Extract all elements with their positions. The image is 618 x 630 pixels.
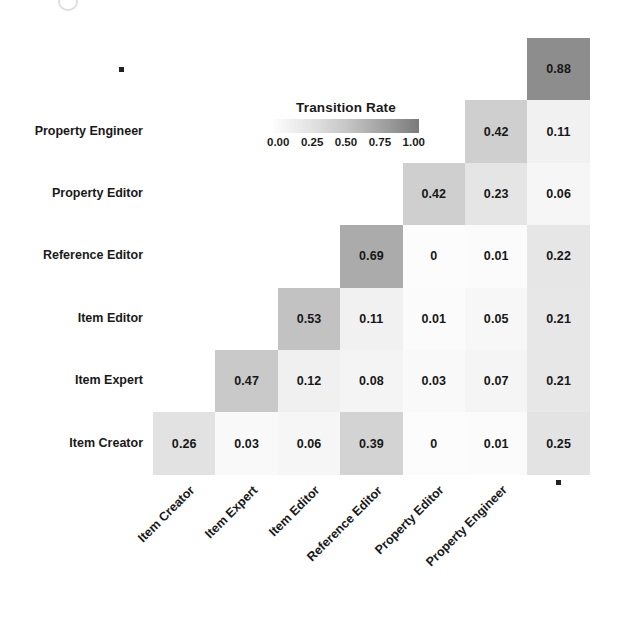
heatmap-cell: 0.01 (403, 288, 465, 350)
heatmap-cell: 0 (403, 412, 465, 474)
heatmap-cell: 0.23 (465, 163, 527, 225)
heatmap-cell: 0.53 (278, 288, 340, 350)
heatmap-cell-value: 0.11 (527, 100, 589, 162)
heatmap-cell-value: 0.21 (527, 350, 589, 412)
heatmap-cell-value: 0.69 (340, 225, 402, 287)
heatmap-cell: 0.03 (215, 412, 277, 474)
heatmap-cell-value: 0 (403, 412, 465, 474)
heatmap-cell-value: 0.01 (465, 412, 527, 474)
legend-tick: 0.75 (369, 136, 391, 148)
heatmap-cell-value: 0.42 (403, 163, 465, 225)
scan-artifact (58, 0, 78, 11)
legend-tick: 0.00 (267, 136, 289, 148)
heatmap-cell: 0.22 (527, 225, 589, 287)
heatmap-cell-value: 0.08 (340, 350, 402, 412)
heatmap-cell: 0.21 (527, 288, 589, 350)
x-axis-dot-marker (556, 480, 561, 485)
legend-tick: 0.50 (335, 136, 357, 148)
heatmap-cell: 0.07 (465, 350, 527, 412)
heatmap-cell: 0.05 (465, 288, 527, 350)
heatmap-cell-value: 0.23 (465, 163, 527, 225)
y-axis-label: Item Creator (0, 437, 143, 450)
heatmap-cell: 0.26 (153, 412, 215, 474)
y-axis-label: Property Engineer (0, 125, 143, 138)
heatmap-cell-value: 0.03 (215, 412, 277, 474)
legend-tick: 1.00 (403, 136, 425, 148)
heatmap-cell: 0.21 (527, 350, 589, 412)
heatmap-cell: 0.42 (403, 163, 465, 225)
heatmap-cell: 0 (403, 225, 465, 287)
heatmap-cell: 0.06 (527, 163, 589, 225)
heatmap-cell: 0.03 (403, 350, 465, 412)
heatmap-cell-value: 0.01 (465, 225, 527, 287)
heatmap-cell-value: 0.25 (527, 412, 589, 474)
heatmap-cell-value: 0.03 (403, 350, 465, 412)
legend-tick: 0.25 (301, 136, 323, 148)
heatmap-cell-value: 0.53 (278, 288, 340, 350)
heatmap-cell: 0.42 (465, 100, 527, 162)
heatmap-cell: 0.47 (215, 350, 277, 412)
heatmap-cell-value: 0.39 (340, 412, 402, 474)
heatmap-cell-value: 0.12 (278, 350, 340, 412)
heatmap-cell: 0.88 (527, 38, 589, 100)
heatmap-cell-value: 0.88 (527, 38, 589, 100)
heatmap-cell: 0.39 (340, 412, 402, 474)
heatmap-cell: 0.69 (340, 225, 402, 287)
heatmap-cell: 0.08 (340, 350, 402, 412)
legend-colorbar (274, 119, 419, 133)
heatmap-cell-value: 0.42 (465, 100, 527, 162)
legend: Transition Rate 0.000.250.500.751.00 (266, 100, 426, 148)
legend-title: Transition Rate (266, 100, 426, 115)
heatmap-cell-value: 0.05 (465, 288, 527, 350)
heatmap-cell: 0.06 (278, 412, 340, 474)
transition-rate-heatmap-figure: 0.880.420.110.420.230.060.6900.010.220.5… (0, 0, 618, 630)
y-axis-label: Item Expert (0, 374, 143, 387)
heatmap-cell-value: 0.07 (465, 350, 527, 412)
y-axis-label: Item Editor (0, 312, 143, 325)
heatmap-cell: 0.01 (465, 412, 527, 474)
heatmap-cell: 0.01 (465, 225, 527, 287)
legend-tick-labels: 0.000.250.500.751.00 (267, 136, 425, 148)
heatmap-cell-value: 0.06 (527, 163, 589, 225)
heatmap-cell: 0.11 (527, 100, 589, 162)
heatmap-cell: 0.11 (340, 288, 402, 350)
heatmap-cell-value: 0.01 (403, 288, 465, 350)
heatmap-cell: 0.25 (527, 412, 589, 474)
heatmap-cell-value: 0.22 (527, 225, 589, 287)
heatmap-cell: 0.12 (278, 350, 340, 412)
heatmap-cell-value: 0.11 (340, 288, 402, 350)
y-axis-dot-marker (119, 67, 124, 72)
heatmap-cell-value: 0.47 (215, 350, 277, 412)
y-axis-label: Property Editor (0, 187, 143, 200)
heatmap-cell-value: 0.21 (527, 288, 589, 350)
y-axis-label: Reference Editor (0, 249, 143, 262)
heatmap-cell-value: 0.06 (278, 412, 340, 474)
heatmap-cell-value: 0.26 (153, 412, 215, 474)
heatmap-cell-value: 0 (403, 225, 465, 287)
